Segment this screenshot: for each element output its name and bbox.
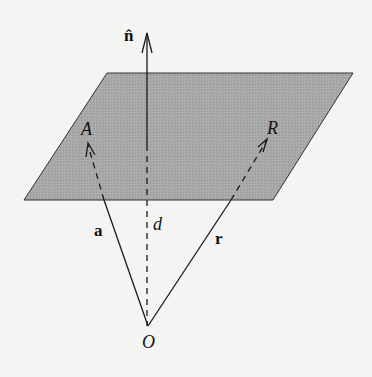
plane [24,73,353,200]
plane-vector-diagram: n̂ A R d a r O [0,0,372,377]
label-point-R: R [266,118,278,138]
label-origin-O: O [142,332,155,352]
label-vector-a: a [94,221,103,240]
label-vector-r: r [215,229,223,248]
label-point-A: A [80,119,93,139]
vector-a-line [104,200,148,326]
label-distance-d: d [153,214,163,234]
label-normal: n̂ [124,26,134,45]
